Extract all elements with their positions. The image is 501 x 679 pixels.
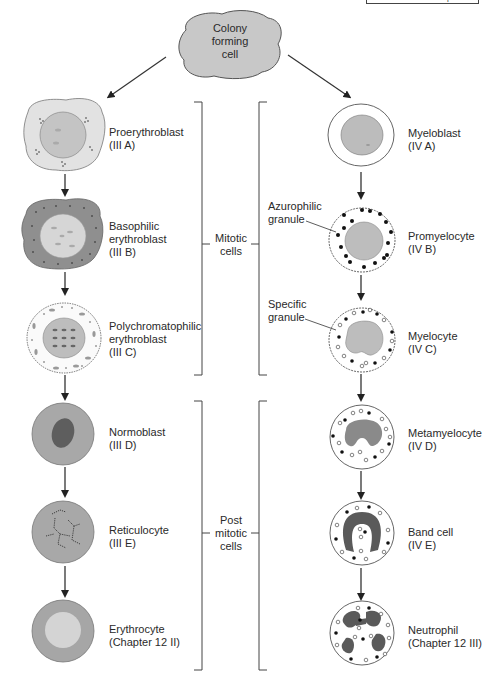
specific-granule-leader-line	[305, 319, 336, 330]
colony-forming-cell-label: Colony forming cell	[195, 22, 265, 61]
group-line-1: Post	[201, 514, 261, 527]
cell-name: Myelocyte	[408, 330, 458, 343]
cell-ref: (IV A)	[408, 140, 461, 153]
cell-name: Erythrocyte	[109, 623, 180, 636]
cell-ref: (III D)	[109, 439, 165, 452]
label-myelocyte: Myelocyte (IV C)	[408, 330, 458, 356]
cell-name: Neutrophil	[408, 624, 482, 637]
erythrocyte-cell	[32, 600, 94, 662]
cell-name: Basophilic	[109, 220, 166, 233]
normoblast-cell	[32, 403, 94, 465]
cell-name-2: erythroblast	[109, 333, 201, 346]
cell-ref: (IV E)	[408, 539, 453, 552]
cell-ref: (IV B)	[408, 243, 475, 256]
cell-ref: (III A)	[109, 139, 184, 152]
cell-ref: (IV D)	[408, 440, 482, 453]
promyelocyte-cell	[329, 208, 395, 272]
group-line-2: mitotic	[201, 527, 261, 540]
myeloblast-cell	[328, 104, 394, 166]
group-line-3: cells	[201, 540, 261, 553]
colony-label-line-3: cell	[195, 48, 265, 61]
cell-ref: (Chapter 12 II)	[109, 636, 180, 649]
cell-name: Reticulocyte	[109, 524, 169, 537]
basophilic-erythroblast-cell	[22, 199, 103, 269]
label-proerythroblast: Proerythroblast (III A)	[109, 126, 184, 152]
myelocyte-cell	[329, 308, 395, 372]
annotation-specific-granule: Specific granule	[268, 298, 307, 324]
neutrophil-cell	[330, 601, 394, 665]
annotation-line-1: Specific	[268, 298, 307, 311]
label-normoblast: Normoblast (III D)	[109, 426, 165, 452]
label-metamyelocyte: Metamyelocyte (IV D)	[408, 427, 482, 453]
label-myeloblast: Myeloblast (IV A)	[408, 127, 461, 153]
metamyelocyte-cell	[330, 405, 394, 469]
label-polychromatophilic-erythroblast: Polychromatophilic erythroblast (III C)	[109, 320, 201, 359]
arrow-to-erythroid	[110, 57, 166, 96]
label-promyelocyte: Promyelocyte (IV B)	[408, 230, 475, 256]
annotation-line-2: granule	[268, 213, 322, 226]
cell-name: Promyelocyte	[408, 230, 475, 243]
label-band-cell: Band cell (IV E)	[408, 526, 453, 552]
proerythroblast-cell	[24, 99, 105, 171]
cell-ref: (IV C)	[408, 343, 458, 356]
label-erythrocyte: Erythrocyte (Chapter 12 II)	[109, 623, 180, 649]
cell-ref: (III B)	[109, 246, 166, 259]
cell-ref: (III E)	[109, 537, 169, 550]
cell-name: Proerythroblast	[109, 126, 184, 139]
cell-name: Band cell	[408, 526, 453, 539]
colony-label-line-1: Colony	[195, 22, 265, 35]
cell-ref: (III C)	[109, 346, 201, 359]
arrow-to-granulocyte	[288, 55, 348, 96]
annotation-line-2: granule	[268, 311, 307, 324]
label-neutrophil: Neutrophil (Chapter 12 III)	[408, 624, 482, 650]
cell-name-2: erythroblast	[109, 233, 166, 246]
label-post-mitotic-cells: Post mitotic cells	[201, 514, 261, 553]
cell-name: Normoblast	[109, 426, 165, 439]
annotation-azurophilic-granule: Azurophilic granule	[268, 200, 322, 226]
colony-label-line-2: forming	[195, 35, 265, 48]
annotation-line-1: Azurophilic	[268, 200, 322, 213]
band-cell	[330, 501, 394, 565]
label-basophilic-erythroblast: Basophilic erythroblast (III B)	[109, 220, 166, 259]
group-line-1: Mitotic	[201, 232, 261, 245]
cell-ref: (Chapter 12 III)	[408, 637, 482, 650]
cell-name: Myeloblast	[408, 127, 461, 140]
label-reticulocyte: Reticulocyte (III E)	[109, 524, 169, 550]
reticulocyte-cell	[32, 501, 94, 563]
polychromatophilic-erythroblast-cell	[27, 303, 101, 373]
cell-name: Polychromatophilic	[109, 320, 201, 333]
label-mitotic-cells: Mitotic cells	[201, 232, 261, 258]
cell-name: Metamyelocyte	[408, 427, 482, 440]
group-line-2: cells	[201, 245, 261, 258]
